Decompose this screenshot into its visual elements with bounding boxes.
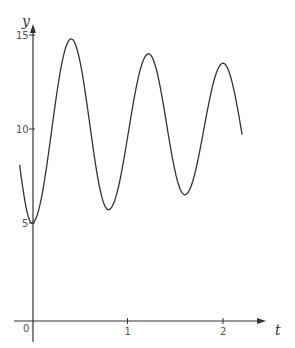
y-tick-label: 15: [16, 30, 29, 41]
y-axis-title: y: [21, 13, 31, 29]
x-tick-label: 2: [220, 326, 226, 337]
data-curve: [20, 39, 243, 223]
x-axis-arrow-icon: [257, 318, 266, 324]
y-ticks: 51015: [16, 30, 35, 229]
x-axis-title: t: [275, 322, 281, 338]
chart: 12 51015 0 y t: [0, 0, 295, 348]
x-tick-label: 1: [125, 326, 131, 337]
y-axis-arrow-icon: [30, 24, 36, 33]
y-tick-label: 5: [22, 218, 28, 229]
origin-label: 0: [23, 323, 29, 334]
y-tick-label: 10: [16, 124, 29, 135]
